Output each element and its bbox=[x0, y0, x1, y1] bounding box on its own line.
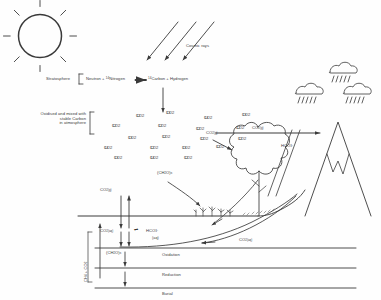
co2-isotope-label: 12CO2 bbox=[158, 123, 164, 128]
rain-cloud-left bbox=[295, 83, 323, 103]
atmosphere-note-bracket bbox=[90, 112, 94, 134]
plus-co2-text: + CO bbox=[83, 263, 88, 274]
co2-subscript: 2 bbox=[110, 145, 112, 150]
plus-sign-2: + bbox=[166, 76, 168, 81]
hco3-text: HCO bbox=[281, 143, 290, 148]
co2-gas-transport-label: CO2(g) bbox=[252, 126, 264, 131]
co2-isotope-label: 12CO2 bbox=[150, 145, 156, 150]
layer-label-reduction: Reduction bbox=[162, 273, 181, 278]
reactant-neutron: Neutron bbox=[86, 76, 101, 81]
cosmic-ray-arrows bbox=[147, 22, 214, 60]
isotope-mass-number: 13 bbox=[166, 110, 170, 115]
hco3-charge: - bbox=[157, 228, 158, 232]
co2-isotope-label: 12CO2 bbox=[112, 123, 118, 128]
co2-isotope-label: 12CO2 bbox=[184, 155, 190, 160]
co2-isotope-label: 13CO2 bbox=[242, 112, 248, 117]
isotope-mass-number: 12 bbox=[136, 113, 140, 118]
co2-isotope-label: 12CO2 bbox=[238, 136, 244, 141]
hco3-charge: - bbox=[292, 143, 293, 147]
methane-co2-label: CH4 + CO2 bbox=[84, 262, 89, 282]
organic-matter-sediment-label: (CH2O)s bbox=[106, 251, 121, 256]
isotope-mass-number: 12 bbox=[238, 136, 242, 141]
co2-subscript: 2 bbox=[244, 136, 246, 141]
air-sea-exchange-arrows bbox=[121, 196, 129, 228]
isotope-mass-number: 13 bbox=[242, 112, 246, 117]
co2-subscript: 2 bbox=[142, 113, 144, 118]
isotope-mass-number: 12 bbox=[216, 144, 220, 149]
co2-subscript: 2(g) bbox=[212, 131, 217, 135]
diagram-canvas: Cosmic rays Stratosphere Neutron + 14Nit… bbox=[0, 0, 381, 300]
rain-cloud-center bbox=[329, 62, 357, 82]
co2-subscript: 2(g) bbox=[258, 126, 263, 130]
equilibrium-arrow-symbol: ⇌ bbox=[134, 227, 138, 232]
co2-isotope-label: 12CO2 bbox=[196, 126, 202, 131]
co2-subscript: 2 bbox=[120, 155, 122, 160]
co2-subscript: 2 bbox=[242, 125, 244, 130]
co2-subscript: 2 bbox=[134, 135, 136, 140]
isotope-mass-number: 12 bbox=[150, 145, 154, 150]
isotope-mass-number: 12 bbox=[162, 134, 166, 139]
mountain-with-snowcap bbox=[305, 122, 371, 216]
isotope-mass-number: 12 bbox=[196, 126, 200, 131]
methane-subscript: 4 bbox=[84, 274, 88, 276]
isotope-mass-number: 12 bbox=[158, 123, 162, 128]
co2-subscript: 2 bbox=[118, 123, 120, 128]
organic-sub-2: s bbox=[120, 251, 122, 255]
co2-subscript: 2 bbox=[164, 123, 166, 128]
shore-plants bbox=[194, 207, 233, 216]
isotope-mass-number: 13 bbox=[128, 135, 132, 140]
co2-isotope-label: 13CO2 bbox=[114, 155, 120, 160]
co2-aqueous-return-label: CO2(aq) bbox=[239, 238, 252, 243]
hco3-text: HCO bbox=[146, 228, 155, 233]
arrow-co2aq-return-head bbox=[202, 242, 215, 243]
co2-isotope-label: 13CO2 bbox=[166, 110, 172, 115]
co2-subscript: 2 bbox=[156, 145, 158, 150]
burial-arrows bbox=[121, 232, 129, 286]
runoff-lines bbox=[268, 130, 300, 196]
sun-icon bbox=[4, 1, 77, 72]
layer-label-oxidation: Oxidation bbox=[162, 253, 180, 258]
sediment-surface-curve bbox=[120, 194, 297, 247]
co2-subscript: 2(aq) bbox=[245, 238, 252, 242]
hco3-sea-phase-label: (aq) bbox=[152, 236, 159, 240]
co2-isotope-label: 12CO2 bbox=[216, 144, 222, 149]
hco3-sea-label: HCO3- bbox=[146, 229, 158, 234]
co2-isotope-label: 14CO2 bbox=[150, 155, 156, 160]
isotope-mass-number: 14 bbox=[104, 145, 108, 150]
isotope-mass-number: 13 bbox=[114, 155, 118, 160]
co2-subscript: 2 bbox=[168, 134, 170, 139]
co2-gas-sea-label: CO2(g) bbox=[100, 188, 112, 193]
co2-isotope-cloud: 12CO213CO214CO213CO212CO212CO212CO212CO2… bbox=[100, 110, 220, 165]
hco3-mountain-label: HCO3- bbox=[281, 144, 293, 149]
co2-isotope-label: 12CO2 bbox=[236, 125, 242, 130]
co2-subscript: 2 bbox=[172, 110, 174, 115]
co2-gas-tree-label: CO2(g) bbox=[206, 131, 218, 136]
co2-isotope-label: 12CO2 bbox=[200, 136, 206, 141]
methane-text: CH bbox=[83, 276, 88, 282]
product-hydrogen: Hydrogen bbox=[170, 76, 188, 81]
co2-isotope-label: 12CO2 bbox=[136, 113, 142, 118]
isotope-mass-number: 12 bbox=[184, 155, 188, 160]
reactant-nitrogen: Nitrogen bbox=[109, 76, 125, 81]
co2-isotope-label: 13CO2 bbox=[182, 145, 188, 150]
plus-sign-1: + bbox=[102, 76, 104, 81]
layer-label-burial: Burial bbox=[162, 292, 173, 297]
co2-subscript: 2 bbox=[206, 136, 208, 141]
arrow-organic-matter-to-sea bbox=[168, 182, 200, 206]
organic-sub-2: s bbox=[171, 171, 173, 175]
co2-isotope-label: 12CO2 bbox=[162, 134, 168, 139]
co2-subscript: 2 bbox=[156, 155, 158, 160]
cosmic-rays-label: Cosmic rays bbox=[186, 44, 209, 49]
co2-subscript: 2 bbox=[188, 145, 190, 150]
stratosphere-label: Stratosphere bbox=[46, 77, 70, 82]
isotope-mass-number: 13 bbox=[182, 145, 186, 150]
co2-isotope-label: 13CO2 bbox=[128, 135, 134, 140]
isotope-mass-number: 14 bbox=[204, 115, 208, 120]
atmosphere-note: Oxidised and mixed with stable Carbon in… bbox=[12, 112, 86, 126]
rain-cloud-right bbox=[343, 83, 371, 103]
stratosphere-bracket bbox=[79, 74, 83, 84]
co2-subscript: 2 bbox=[190, 155, 192, 160]
arrow-tree-to-sediment-head bbox=[212, 219, 222, 225]
co2-subscript: 2 bbox=[248, 112, 250, 117]
co2-isotope-label: 14CO2 bbox=[204, 115, 210, 120]
